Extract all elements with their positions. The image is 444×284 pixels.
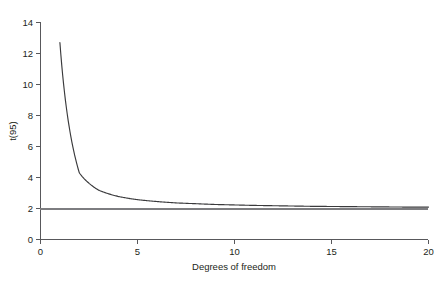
chart-figure: 0 2 4 6 8 10 12 14 0 5 10 15 20 [0, 0, 444, 284]
y-tick-label: 4 [28, 172, 33, 183]
x-tick-label: 10 [229, 246, 240, 257]
y-tick-label: 0 [28, 234, 33, 245]
x-tick-label: 5 [135, 246, 140, 257]
x-tick-label: 15 [326, 246, 337, 257]
y-axis-title: t(95) [7, 121, 18, 141]
chart-background [0, 0, 444, 284]
y-tick-label: 2 [28, 203, 33, 214]
y-tick-label: 14 [22, 17, 33, 28]
x-tick-label: 20 [423, 246, 434, 257]
y-tick-label: 12 [22, 48, 33, 59]
y-tick-label: 6 [28, 141, 33, 152]
x-axis-title: Degrees of freedom [192, 261, 276, 272]
x-tick-label: 0 [38, 246, 43, 257]
y-tick-label: 8 [28, 110, 33, 121]
y-tick-label: 10 [22, 79, 33, 90]
chart-plot-svg: 0 2 4 6 8 10 12 14 0 5 10 15 20 [0, 0, 444, 284]
